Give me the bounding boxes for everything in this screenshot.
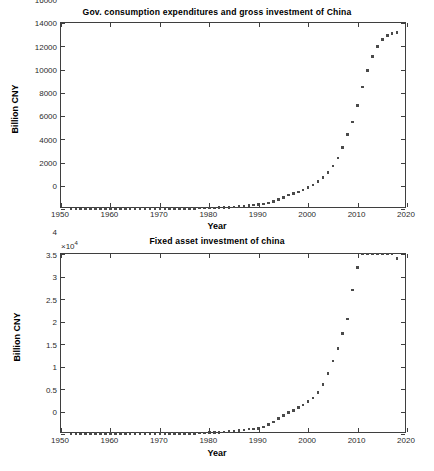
data-point bbox=[282, 196, 285, 199]
figure-container: Gov. consumption expenditures and gross … bbox=[0, 0, 434, 471]
data-point bbox=[238, 429, 241, 432]
x-tick-mark bbox=[308, 254, 309, 258]
y-tick-label: 16000 bbox=[35, 0, 60, 5]
x-tick-mark bbox=[110, 203, 111, 207]
y-tick-mark bbox=[401, 434, 405, 435]
data-point bbox=[124, 432, 127, 435]
data-point bbox=[277, 417, 280, 420]
x-tick-mark bbox=[259, 428, 260, 432]
plot-area bbox=[60, 22, 406, 208]
y-tick-label: 0 bbox=[53, 182, 60, 191]
data-point bbox=[376, 253, 379, 256]
x-tick-mark bbox=[407, 428, 408, 432]
data-point bbox=[307, 400, 310, 403]
data-point bbox=[208, 207, 211, 210]
y-tick-mark bbox=[61, 163, 65, 164]
y-tick-mark bbox=[61, 367, 65, 368]
data-point bbox=[312, 397, 315, 400]
y-tick-mark bbox=[401, 163, 405, 164]
y-tick-label: 0.5 bbox=[46, 385, 60, 394]
y-tick-mark bbox=[61, 46, 65, 47]
x-tick-mark bbox=[259, 254, 260, 258]
data-point bbox=[119, 432, 122, 435]
y-tick-label: 10000 bbox=[35, 65, 60, 74]
data-point bbox=[332, 165, 335, 168]
y-tick-label: 8000 bbox=[39, 89, 60, 98]
data-point bbox=[356, 266, 359, 269]
x-tick-mark bbox=[358, 23, 359, 27]
chart-panel-fixed-asset: Fixed asset investment of china ×104 Bil… bbox=[0, 232, 434, 471]
y-tick-label: 1.5 bbox=[46, 340, 60, 349]
y-tick-mark bbox=[61, 277, 65, 278]
data-point bbox=[346, 318, 349, 321]
x-tick-label: 1950 bbox=[51, 210, 69, 219]
data-point bbox=[144, 432, 147, 435]
y-tick-mark bbox=[61, 23, 65, 24]
data-point bbox=[332, 360, 335, 363]
data-point bbox=[228, 430, 231, 433]
data-point bbox=[327, 372, 330, 375]
data-point bbox=[386, 34, 389, 37]
y-tick-mark bbox=[401, 389, 405, 390]
x-tick-mark bbox=[160, 254, 161, 258]
y-tick-mark bbox=[61, 412, 65, 413]
data-point bbox=[381, 38, 384, 41]
x-tick-label: 1960 bbox=[101, 436, 119, 445]
data-point bbox=[99, 432, 102, 435]
x-tick-mark bbox=[407, 203, 408, 207]
data-point bbox=[233, 206, 236, 209]
data-point bbox=[84, 433, 87, 436]
data-point bbox=[262, 203, 265, 206]
data-point bbox=[213, 207, 216, 210]
y-tick-label: 2000 bbox=[39, 158, 60, 167]
x-tick-label: 1990 bbox=[249, 210, 267, 219]
data-point bbox=[252, 204, 255, 207]
data-point bbox=[282, 414, 285, 417]
x-tick-label: 1990 bbox=[249, 436, 267, 445]
y-tick-mark bbox=[401, 93, 405, 94]
data-point bbox=[361, 253, 364, 256]
y-tick-label: 4 bbox=[53, 228, 60, 237]
data-point bbox=[149, 432, 152, 435]
x-tick-mark bbox=[61, 203, 62, 207]
data-point bbox=[203, 207, 206, 210]
data-point bbox=[272, 200, 275, 203]
data-point bbox=[302, 189, 305, 192]
x-tick-mark bbox=[110, 254, 111, 258]
x-tick-mark bbox=[308, 428, 309, 432]
y-tick-mark bbox=[61, 389, 65, 390]
data-point bbox=[267, 423, 270, 426]
data-point bbox=[351, 121, 354, 124]
data-point bbox=[361, 86, 364, 89]
y-tick-mark bbox=[401, 344, 405, 345]
data-point bbox=[134, 432, 137, 435]
data-point bbox=[287, 411, 290, 414]
chart-title: Gov. consumption expenditures and gross … bbox=[0, 7, 434, 17]
data-point bbox=[79, 433, 82, 436]
y-tick-mark bbox=[61, 344, 65, 345]
y-tick-label: 2 bbox=[53, 318, 60, 327]
x-tick-label: 2010 bbox=[348, 436, 366, 445]
y-tick-mark bbox=[61, 299, 65, 300]
x-axis-label: Year bbox=[0, 221, 434, 231]
data-point bbox=[243, 205, 246, 208]
data-point bbox=[218, 431, 221, 434]
data-point bbox=[233, 430, 236, 433]
data-point bbox=[356, 104, 359, 107]
y-tick-mark bbox=[401, 367, 405, 368]
data-point bbox=[139, 432, 142, 435]
data-point bbox=[371, 55, 374, 58]
data-point bbox=[198, 432, 201, 435]
x-tick-mark bbox=[308, 203, 309, 207]
y-tick-mark bbox=[401, 70, 405, 71]
data-point bbox=[337, 157, 340, 160]
data-point bbox=[277, 198, 280, 201]
data-point bbox=[94, 432, 97, 435]
y-tick-mark bbox=[401, 322, 405, 323]
data-point bbox=[366, 253, 369, 256]
data-point bbox=[252, 428, 255, 431]
data-points-layer bbox=[61, 254, 405, 432]
data-point bbox=[371, 253, 374, 256]
data-point bbox=[89, 432, 92, 435]
data-point bbox=[114, 432, 117, 435]
